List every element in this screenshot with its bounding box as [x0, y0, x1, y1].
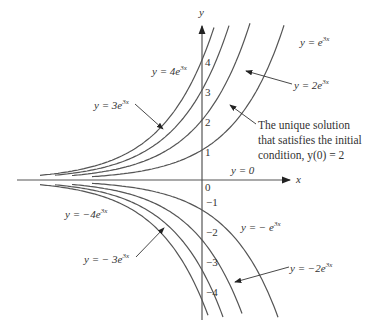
y-tick-m4: −4 — [206, 286, 218, 298]
x-axis-label: x — [296, 173, 301, 185]
note-line-2: that satisfies the initial — [258, 133, 362, 148]
note-line-3: condition, y(0) = 2 — [258, 148, 362, 163]
label-4e: y = 4e3x — [152, 64, 187, 77]
curve-neg-4e3x — [40, 185, 208, 316]
y-tick-m2: −2 — [206, 226, 218, 238]
y-tick-2: 2 — [205, 116, 211, 128]
note-line-1: The unique solution — [258, 118, 362, 133]
label-2e: y = 2e3x — [294, 78, 329, 91]
curve-3e3x — [55, 26, 229, 176]
unique-solution-note: The unique solution that satisfies the i… — [258, 118, 362, 163]
y-tick-4: 4 — [205, 56, 211, 68]
y-tick-1: 1 — [205, 146, 211, 158]
curve-neg-3e3x — [55, 185, 223, 317]
pointer-3e — [135, 104, 163, 129]
y-axis-label: y — [199, 6, 204, 18]
pointer-m3e — [136, 228, 164, 257]
label-m2e: y = −2e3x — [290, 261, 332, 274]
label-3e: y = 3e3x — [94, 98, 129, 111]
pointer-unique — [230, 105, 256, 124]
label-m3e: y = − 3e3x — [84, 252, 129, 265]
y-tick-3: 3 — [205, 86, 211, 98]
pointer-2e — [246, 71, 292, 84]
label-y-zero: y = 0 — [231, 164, 254, 176]
label-e: y = e3x — [300, 35, 329, 48]
y-tick-m3: −3 — [206, 256, 218, 268]
y-tick-m1: −1 — [206, 196, 218, 208]
label-m4e: y = −4e3x — [65, 207, 107, 220]
label-me: y = − e3x — [241, 220, 280, 233]
origin-label: 0 — [205, 181, 211, 193]
solution-curves-plot — [0, 0, 375, 336]
